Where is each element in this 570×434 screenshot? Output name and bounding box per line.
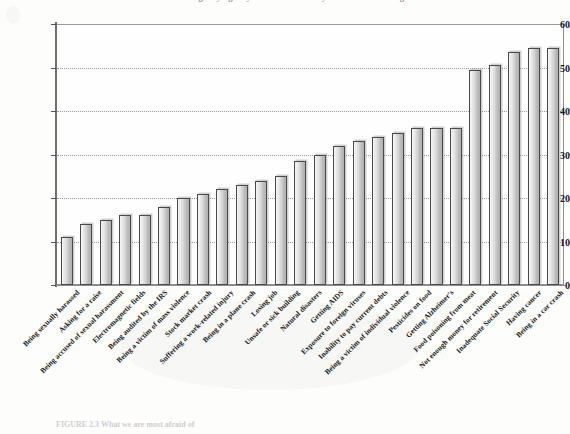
x-axis-labels: Being sexually harassedAsking for a rais… [57,288,563,428]
bar-series [57,24,563,285]
bar-slot [139,24,151,285]
bar [294,161,306,285]
bar [411,128,423,285]
bar-slot [314,24,326,285]
bar-slot [255,24,267,285]
bar [372,137,384,285]
bar [139,215,151,285]
bar-slot [392,24,404,285]
y-axis-tick-mark [51,242,56,243]
bar-slot [158,24,170,285]
bar [100,220,112,285]
bar [255,181,267,285]
bar-slot [216,24,228,285]
y-axis-tick-mark [51,285,56,286]
y-axis-tick-mark [51,198,56,199]
bar-slot [177,24,189,285]
figure-caption: FIGURE 2.3 What we are most afraid of [56,420,556,434]
bar [469,70,481,285]
bar [80,224,92,285]
bar-slot [100,24,112,285]
bar [177,198,189,285]
bar-slot [353,24,365,285]
x-axis-line [55,285,565,286]
bar [508,52,520,285]
bar-slot [119,24,131,285]
bar [61,237,73,285]
bar [333,146,345,285]
bar-slot [469,24,481,285]
bar-slot [528,24,540,285]
bar-slot [236,24,248,285]
bar [489,65,501,285]
chart-title: Percentage saying they are 'afraid' or '… [0,0,570,4]
bar [353,141,365,285]
bar [275,176,287,285]
y-axis-tick-mark [51,155,56,156]
bar-slot [489,24,501,285]
y-axis-tick-mark [51,111,56,112]
bar [197,194,209,285]
y-axis-tick-mark [51,24,56,25]
bar [430,128,442,285]
bar-slot [333,24,345,285]
bar-slot [508,24,520,285]
bar-slot [275,24,287,285]
bar [547,48,559,285]
bar-slot [372,24,384,285]
bar [236,185,248,285]
bar-slot [450,24,462,285]
bar [392,133,404,285]
bar-slot [294,24,306,285]
bar-slot [61,24,73,285]
bar-slot [197,24,209,285]
bar [119,215,131,285]
bar [450,128,462,285]
bar-slot [80,24,92,285]
y-axis-tick-mark [51,68,56,69]
bar-slot [430,24,442,285]
bar-slot [411,24,423,285]
bar [314,155,326,286]
bar [158,207,170,285]
bar [528,48,540,285]
bar [216,189,228,285]
bar-slot [547,24,559,285]
